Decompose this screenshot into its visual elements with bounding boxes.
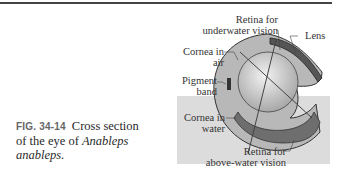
- label-line: Cornea in: [175, 112, 225, 123]
- label-line: above-water vision: [186, 157, 286, 168]
- label-retina-underwater: Retina for underwater vision: [186, 14, 278, 36]
- figure-number: FIG. 34-14: [16, 121, 66, 132]
- label-pigment-band: Pigment band: [172, 75, 217, 97]
- caption-line2: of the eye of: [16, 134, 82, 148]
- label-line: band: [172, 86, 217, 97]
- lens-sphere: [238, 52, 298, 112]
- label-line: water: [175, 123, 225, 134]
- pigment-band: [227, 78, 231, 90]
- caption-genus: Anableps: [82, 134, 129, 148]
- label-line: Cornea in: [180, 46, 224, 57]
- caption-species: anableps.: [16, 148, 64, 162]
- label-line: Retina for: [186, 14, 278, 25]
- label-line: Retina for: [186, 146, 286, 157]
- figure-caption: FIG. 34-14Cross section of the eye of An…: [16, 119, 166, 162]
- label-cornea-water: Cornea in water: [175, 112, 225, 134]
- label-line: air: [180, 57, 224, 68]
- caption-line1: Cross section: [72, 119, 139, 133]
- label-line: underwater vision: [186, 25, 278, 36]
- label-lens: Lens: [305, 30, 325, 41]
- label-retina-above-water: Retina for above-water vision: [186, 146, 286, 168]
- label-cornea-air: Cornea in air: [180, 46, 224, 68]
- label-line: Pigment: [172, 75, 217, 86]
